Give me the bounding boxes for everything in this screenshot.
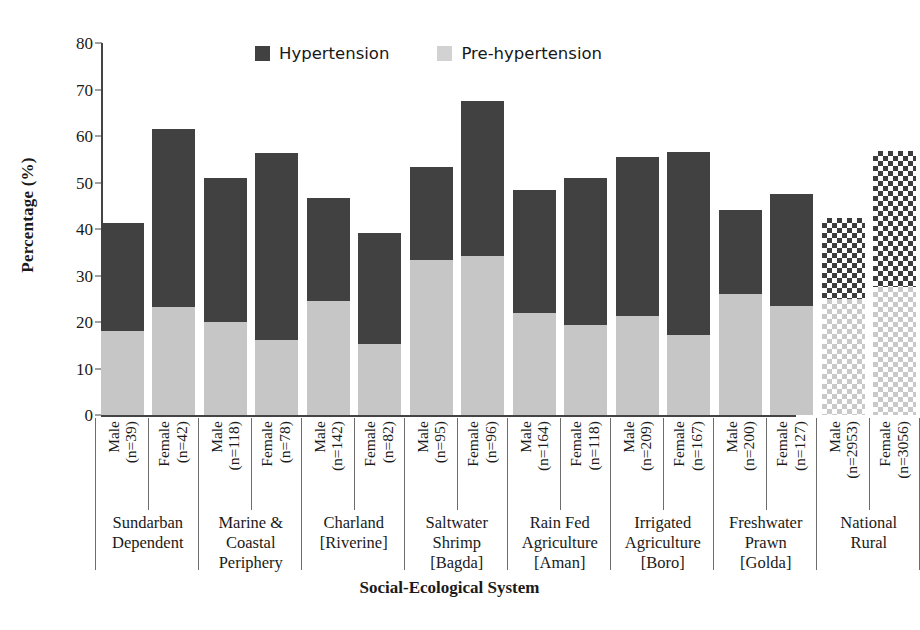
bar-segment-pre-hypertension [410, 260, 453, 415]
bar-tick-label: Female(n=118) [564, 421, 607, 517]
stacked-bar [204, 178, 247, 415]
bar-segment-hypertension [307, 198, 350, 301]
stacked-bar [358, 233, 401, 415]
y-axis-title: Percentage (%) [18, 125, 38, 305]
stacked-bar [410, 167, 453, 415]
bar-tick-label: Male(n=142) [307, 421, 350, 517]
group-label-line: Agriculture [513, 533, 607, 553]
bar-segment-hypertension [564, 178, 607, 325]
group-label-line: Periphery [204, 553, 298, 573]
bar-segment-hypertension [770, 194, 813, 306]
group-label-line: Prawn [719, 533, 813, 553]
bar-segment-hypertension [616, 157, 659, 316]
y-tick-label: 0 [53, 407, 93, 424]
bar-tick-label: Male(n=2953) [822, 421, 865, 517]
y-tick-label: 40 [53, 221, 93, 238]
bar-label-sex: Female [259, 421, 275, 467]
bar-label-n: (n=200) [741, 421, 757, 471]
bar-segment-pre-hypertension [873, 287, 916, 415]
x-axis-title: Social-Ecological System [0, 578, 899, 598]
group-label: NationalRural [822, 513, 916, 553]
bar-label-sex: Female [774, 421, 790, 467]
sex-divider [766, 418, 767, 510]
bar-label-n: (n=3056) [895, 421, 911, 479]
bar-segment-hypertension [204, 178, 247, 322]
bar-label-n: (n=118) [226, 421, 242, 471]
bar-label-n: (n=82) [380, 421, 396, 463]
bar-segment-pre-hypertension [204, 322, 247, 415]
bar-tick-label: Male(n=95) [410, 421, 453, 517]
bar-segment-pre-hypertension [513, 313, 556, 415]
stacked-bar [461, 101, 504, 415]
y-tick-label: 80 [53, 35, 93, 52]
bar-tick-label: Female(n=42) [152, 421, 195, 517]
bar-label-n: (n=164) [535, 421, 551, 471]
group-label-line: Agriculture [616, 533, 710, 553]
group-label-line: Charland [307, 513, 401, 533]
x-axis-group-labels: SundarbanDependentMarine &CoastalPeriphe… [101, 513, 801, 583]
bar-label-sex: Male [518, 421, 534, 453]
bar-label-n: (n=2953) [844, 421, 860, 479]
stacked-bar [616, 157, 659, 415]
bar-segment-pre-hypertension [822, 299, 865, 415]
bar-label-n: (n=39) [123, 421, 139, 463]
bar-label-sex: Male [827, 421, 843, 453]
bar-label-n: (n=95) [432, 421, 448, 463]
group-divider [95, 418, 96, 570]
bar-segment-hypertension [152, 129, 195, 307]
group-label-line: [Golda] [719, 553, 813, 573]
y-tick-label: 20 [53, 314, 93, 331]
bar-segment-pre-hypertension [770, 306, 813, 415]
bar-label-sex: Female [465, 421, 481, 467]
plot-area [101, 43, 801, 415]
bar-tick-label: Female(n=78) [255, 421, 298, 517]
bar-label-sex: Male [209, 421, 225, 453]
bar-label-n: (n=118) [586, 421, 602, 471]
y-tick-label: 60 [53, 128, 93, 145]
stacked-bar [513, 190, 556, 415]
bar-segment-hypertension [255, 153, 298, 340]
bar-segment-pre-hypertension [461, 256, 504, 415]
bar-tick-label: Male(n=209) [616, 421, 659, 517]
legend-swatch-dark [255, 46, 270, 61]
chart-legend: HypertensionPre-hypertension [255, 44, 602, 63]
bar-segment-pre-hypertension [719, 294, 762, 415]
bar-label-sex: Female [156, 421, 172, 467]
bar-label-sex: Male [312, 421, 328, 453]
legend-label: Pre-hypertension [461, 44, 602, 63]
bar-tick-label: Male(n=200) [719, 421, 762, 517]
bar-segment-pre-hypertension [564, 325, 607, 415]
bar-tick-label: Female(n=167) [667, 421, 710, 517]
group-label-line: Freshwater [719, 513, 813, 533]
stacked-bar [152, 129, 195, 415]
legend-item: Hypertension [255, 44, 389, 63]
group-label: SaltwaterShrimp[Bagda] [410, 513, 504, 573]
bar-label-sex: Male [724, 421, 740, 453]
bar-segment-hypertension [667, 152, 710, 335]
stacked-bar [770, 194, 813, 415]
bar-tick-label: Female(n=127) [770, 421, 813, 517]
stacked-bar [873, 151, 916, 415]
bar-label-n: (n=42) [174, 421, 190, 463]
bar-segment-hypertension [461, 101, 504, 256]
bar-label-sex: Female [568, 421, 584, 467]
bar-segment-hypertension [719, 210, 762, 294]
stacked-bar [719, 210, 762, 415]
group-label: IrrigatedAgriculture[Boro] [616, 513, 710, 573]
group-label: SundarbanDependent [101, 513, 195, 553]
group-label-line: [Aman] [513, 553, 607, 573]
group-label-line: Sundarban [101, 513, 195, 533]
bar-segment-hypertension [513, 190, 556, 313]
bar-segment-pre-hypertension [255, 340, 298, 415]
sex-divider [457, 418, 458, 510]
sex-divider [354, 418, 355, 510]
y-tick-label: 70 [53, 81, 93, 98]
group-label-line: Irrigated [616, 513, 710, 533]
legend-label: Hypertension [279, 44, 389, 63]
group-label-line: [Bagda] [410, 553, 504, 573]
bar-tick-label: Female(n=96) [461, 421, 504, 517]
bar-label-n: (n=78) [277, 421, 293, 463]
sex-divider [560, 418, 561, 510]
bar-tick-label: Female(n=82) [358, 421, 401, 517]
bar-label-n: (n=127) [792, 421, 808, 471]
